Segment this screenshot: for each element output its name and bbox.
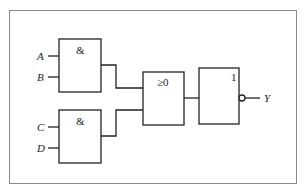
input-c-label: C: [37, 121, 45, 133]
inversion-bubble-icon: [239, 95, 245, 101]
and-gate-2-symbol: &: [76, 115, 85, 127]
input-b-label: B: [37, 71, 44, 83]
not-gate-symbol: 1: [231, 71, 237, 83]
and-gate-1-symbol: &: [76, 44, 85, 56]
input-d-label: D: [36, 142, 45, 154]
output-y-label: Y: [264, 92, 272, 104]
and1-to-or-wire: [101, 65, 143, 88]
or-gate-symbol: ≥0: [157, 76, 169, 88]
input-a-label: A: [36, 50, 44, 62]
logic-circuit-diagram: A B C D & & ≥0 1 Y: [0, 0, 304, 190]
and2-to-or-wire: [101, 110, 143, 136]
